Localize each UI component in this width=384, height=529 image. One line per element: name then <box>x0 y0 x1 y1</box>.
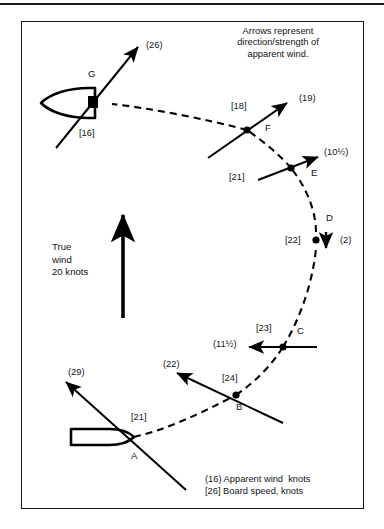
apparent-wind-label-c: (11½) <box>213 339 237 350</box>
figure-legend: (16) Apparent wind knots [26] Board spee… <box>205 473 355 498</box>
point-marker-f <box>243 126 250 133</box>
apparent-wind-label-e: (10½) <box>324 147 348 158</box>
point-label-e: E <box>311 167 317 179</box>
apparent-wind-label-b: (22) <box>163 359 180 370</box>
point-label-c: C <box>297 325 304 337</box>
figure-page: Arrows represent direction/strength of a… <box>0 0 384 529</box>
apparent-wind-label-a: (29) <box>68 367 85 378</box>
board-speed-label-a: [21] <box>131 412 147 423</box>
apparent-wind-label-d: (2) <box>340 235 351 246</box>
point-label-a: A <box>131 450 137 462</box>
point-label-b: B <box>236 401 242 413</box>
board-speed-label-d: [22] <box>285 235 301 246</box>
point-marker-d <box>312 236 319 243</box>
board-speed-label-g: [16] <box>79 128 95 139</box>
arrows-note: Arrows represent direction/strength of a… <box>206 26 350 60</box>
point-label-f: F <box>265 122 271 134</box>
board-speed-label-b: [24] <box>222 373 238 384</box>
point-marker-c <box>279 343 286 350</box>
point-marker-e <box>287 164 294 171</box>
point-label-d: D <box>326 212 333 224</box>
point-label-g: G <box>88 68 95 80</box>
true-wind-label: True wind 20 knots <box>52 241 122 279</box>
apparent-wind-label-f: (19) <box>299 93 316 104</box>
board-speed-label-c: [23] <box>256 323 272 334</box>
board-hull-g <box>41 88 98 118</box>
board-speed-label-e: [21] <box>229 172 245 183</box>
board-hull-a <box>71 429 134 445</box>
board-speed-label-f: [18] <box>231 101 247 112</box>
point-marker-b <box>232 391 239 398</box>
apparent-wind-label-g: (26) <box>146 40 163 51</box>
